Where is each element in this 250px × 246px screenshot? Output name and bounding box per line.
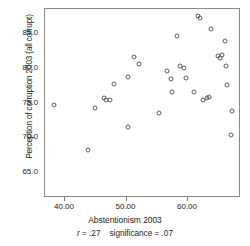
plot-area	[44, 8, 240, 197]
data-points-layer	[45, 9, 241, 198]
data-point	[126, 124, 131, 129]
data-point	[93, 106, 98, 111]
y-tick-label: 80.0	[12, 62, 38, 71]
data-point	[209, 26, 214, 31]
data-point	[224, 64, 229, 69]
x-tick-mark	[64, 197, 65, 201]
data-point	[192, 90, 197, 95]
data-point	[182, 66, 187, 71]
data-point	[51, 103, 56, 108]
data-point	[132, 54, 137, 59]
data-point	[206, 94, 211, 99]
x-tick-label: 40.00	[54, 202, 74, 211]
data-point	[107, 98, 112, 103]
y-tick-label: 65.0	[12, 167, 38, 176]
data-point	[165, 68, 170, 73]
data-point	[229, 133, 234, 138]
y-tick-label: 85.0	[12, 28, 38, 37]
data-point	[219, 53, 224, 58]
x-tick-mark	[126, 197, 127, 201]
data-point	[225, 83, 230, 88]
data-point	[169, 76, 174, 81]
data-point	[85, 148, 90, 153]
data-point	[125, 74, 130, 79]
data-point	[198, 16, 203, 21]
x-tick-label: 60.00	[177, 202, 197, 211]
data-point	[112, 82, 117, 87]
data-point	[230, 108, 235, 113]
x-tick-label: 50.00	[115, 202, 135, 211]
statistics-annotation: r = .27significance = .07	[0, 229, 250, 238]
significance-value: significance = .07	[109, 229, 173, 238]
data-point	[136, 61, 141, 66]
x-axis-title: Abstentionism 2003	[0, 215, 250, 225]
y-tick-label: 75.0	[12, 97, 38, 106]
data-point	[170, 90, 175, 95]
correlation-value: = .27	[82, 229, 100, 238]
data-point	[157, 110, 162, 115]
scatter-plot-figure: Perception of corruption 2003 (all corru…	[0, 0, 250, 246]
data-point	[174, 34, 179, 39]
y-axis-tick-labels: 65.070.075.080.085.0	[12, 0, 38, 246]
x-tick-mark	[187, 197, 188, 201]
data-point	[183, 76, 188, 81]
data-point	[222, 39, 227, 44]
y-tick-label: 70.0	[12, 132, 38, 141]
